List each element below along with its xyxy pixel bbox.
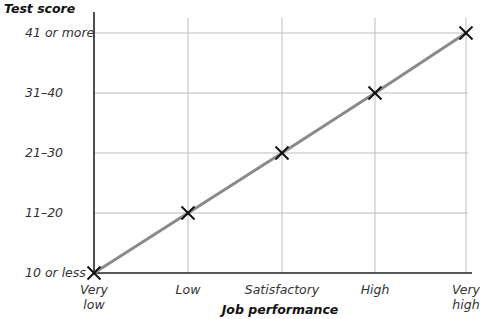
y-axis-tick-labels: 10 or less11–2021–3031–4041 or more: [25, 25, 95, 280]
x-axis-title: Job performance: [219, 302, 339, 317]
x-tick-label: Satisfactory: [245, 282, 320, 297]
y-tick-label: 10 or less: [25, 265, 86, 280]
x-tick-label: Verylow: [80, 282, 109, 312]
x-tick-label: High: [361, 282, 390, 297]
gridlines: [94, 18, 468, 273]
x-tick-label: Low: [176, 282, 202, 297]
x-tick-label: Veryhigh: [452, 282, 481, 312]
y-tick-label: 21–30: [25, 145, 63, 160]
y-tick-label: 11–20: [25, 205, 63, 220]
y-tick-label: 31–40: [25, 85, 63, 100]
y-tick-label: 41 or more: [25, 25, 95, 40]
line-chart: 10 or less11–2021–3031–4041 or more Very…: [0, 0, 483, 319]
y-axis-title: Test score: [4, 1, 75, 16]
axes: [94, 12, 472, 273]
